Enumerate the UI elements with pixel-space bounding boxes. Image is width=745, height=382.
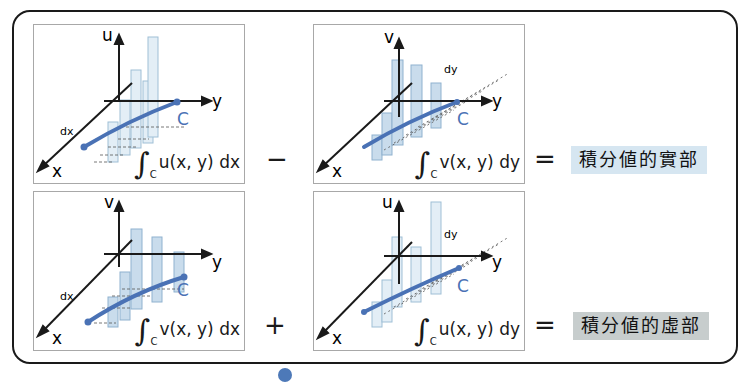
vertical-axis-label: u	[382, 192, 393, 212]
differential-label: dy	[444, 63, 458, 76]
integral-subscript: C	[431, 169, 438, 180]
equals-operator-bottom: =	[534, 310, 556, 340]
bullet-icon	[278, 368, 292, 382]
differential-label: dx	[60, 125, 74, 138]
integral-expression: ∫Cu(x, y) dy	[414, 313, 520, 348]
vertical-axis-label: u	[102, 25, 113, 45]
equals-operator-top: =	[534, 144, 556, 174]
depth-axis-label: x	[52, 161, 62, 181]
vertical-axis-label: v	[104, 192, 114, 212]
curve-label: C	[177, 109, 189, 129]
horizontal-axis-label: y	[492, 91, 502, 111]
integrand: v(x, y) dx	[159, 319, 240, 339]
integrand: v(x, y) dy	[439, 152, 520, 172]
integrand: u(x, y) dy	[439, 319, 520, 339]
depth-axis-label: x	[332, 328, 342, 348]
integral-sign: ∫	[135, 313, 151, 348]
curve-label: C	[457, 276, 469, 296]
panel-top-left: u y x C dx ∫Cu(x, y) dx	[33, 24, 245, 184]
depth-axis-label: x	[332, 161, 342, 181]
horizontal-axis-label: y	[492, 252, 502, 272]
integral-expression: ∫Cv(x, y) dy	[415, 146, 520, 181]
curve-label: C	[177, 280, 189, 300]
integral-subscript: C	[430, 336, 437, 347]
minus-operator: −	[266, 144, 288, 174]
integral-sign: ∫	[414, 313, 430, 348]
differential-label: dx	[60, 290, 74, 303]
integral-sign: ∫	[134, 146, 150, 181]
panel-top-right: v y x C dy ∫Cv(x, y) dy	[313, 24, 525, 184]
depth-axis-label: x	[52, 328, 62, 348]
imaginary-part-label: 積分値的虛部	[573, 312, 709, 340]
curve-label: C	[457, 109, 469, 129]
integral-expression: ∫Cv(x, y) dx	[135, 313, 240, 348]
integral-subscript: C	[151, 336, 158, 347]
differential-label: dy	[444, 228, 458, 241]
panel-bottom-left: v y x C dx ∫Cv(x, y) dx	[33, 191, 245, 351]
integral-expression: ∫Cu(x, y) dx	[134, 146, 240, 181]
integral-subscript: C	[150, 169, 157, 180]
panel-bottom-right: u y x C dy ∫Cu(x, y) dy	[313, 191, 525, 351]
horizontal-axis-label: y	[212, 252, 222, 272]
real-part-label: 積分値的實部	[571, 146, 707, 174]
horizontal-axis-label: y	[212, 91, 222, 111]
integrand: u(x, y) dx	[159, 152, 240, 172]
vertical-axis-label: v	[384, 27, 394, 47]
plus-operator: +	[264, 310, 286, 340]
integral-sign: ∫	[415, 146, 431, 181]
